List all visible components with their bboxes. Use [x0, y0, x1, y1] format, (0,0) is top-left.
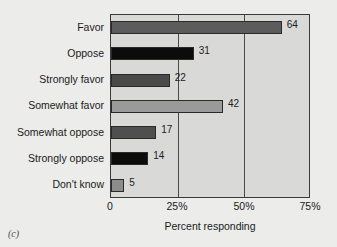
category-label-strongly-oppose: Strongly oppose: [0, 152, 104, 165]
bar-value-oppose: 31: [199, 44, 210, 57]
bar-row-dont-know: 5: [111, 173, 309, 199]
category-label-somewhat-favor: Somewhat favor: [0, 99, 104, 112]
bar-row-somewhat-oppose: 17: [111, 120, 309, 146]
xtick-label-50: 50%: [233, 200, 254, 212]
bar-dont-know: [111, 179, 124, 192]
category-label-strongly-favor: Strongly favor: [0, 73, 104, 86]
xtick-label-0: 0: [107, 200, 113, 212]
bar-row-somewhat-favor: 42: [111, 94, 309, 120]
bar-value-favor: 64: [287, 18, 298, 31]
bar-row-strongly-favor: 22: [111, 68, 309, 94]
bar-row-oppose: 31: [111, 41, 309, 67]
bar-rows: 64 31 22 42 17 14: [111, 15, 309, 197]
xtick-label-25: 25%: [166, 200, 187, 212]
bar-value-strongly-oppose: 14: [153, 149, 164, 162]
panel-caption: (c): [8, 228, 19, 239]
category-label-oppose: Oppose: [0, 47, 104, 60]
bar-value-somewhat-favor: 42: [228, 97, 239, 110]
category-label-somewhat-oppose: Somewhat oppose: [0, 126, 104, 139]
bar-somewhat-favor: [111, 100, 223, 113]
x-axis-title: Percent responding: [110, 220, 310, 232]
bar-row-favor: 64: [111, 15, 309, 41]
category-axis-labels: Favor Oppose Strongly favor Somewhat fav…: [0, 14, 104, 198]
bar-oppose: [111, 47, 194, 60]
bar-strongly-favor: [111, 74, 170, 87]
bar-value-strongly-favor: 22: [175, 71, 186, 84]
figure-panel: Favor Oppose Strongly favor Somewhat fav…: [0, 0, 337, 247]
bar-value-somewhat-oppose: 17: [161, 123, 172, 136]
category-label-dont-know: Don't know: [0, 178, 104, 191]
category-label-favor: Favor: [0, 21, 104, 34]
plot-area: 64 31 22 42 17 14: [110, 14, 310, 198]
bar-value-dont-know: 5: [129, 176, 135, 189]
bar-favor: [111, 21, 282, 34]
bar-row-strongly-oppose: 14: [111, 146, 309, 172]
xtick-label-75: 75%: [299, 200, 320, 212]
bar-somewhat-oppose: [111, 126, 156, 139]
bar-strongly-oppose: [111, 152, 148, 165]
